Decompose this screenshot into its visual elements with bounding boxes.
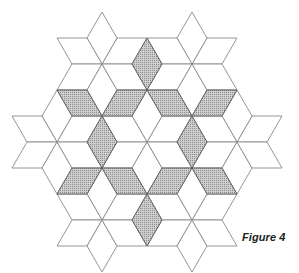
figure-caption: Figure 4	[242, 231, 286, 243]
